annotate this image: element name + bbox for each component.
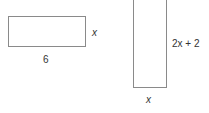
rectangle-a-height-label: x (92, 28, 97, 38)
rectangle-a-width-label: 6 (43, 55, 49, 65)
rectangle-b-width-label: x (146, 95, 151, 105)
rectangle-a (8, 16, 86, 47)
rectangle-b (133, 0, 167, 88)
rectangle-b-height-label: 2x + 2 (172, 39, 200, 49)
